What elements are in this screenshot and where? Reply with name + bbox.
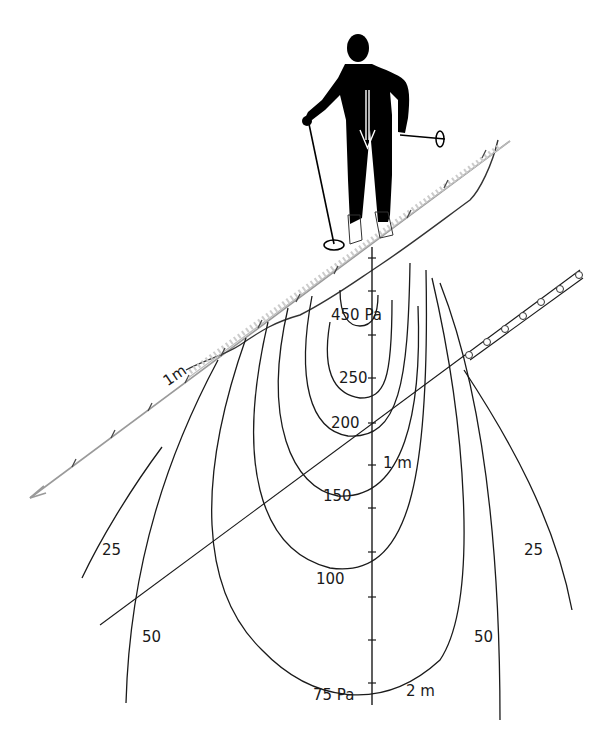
isobar-label-250: 250 [339, 369, 368, 387]
isobar-label-450: 450 Pa [331, 306, 382, 324]
isobars: 450 Pa 250 200 150 100 75 Pa 50 50 25 25 [82, 263, 572, 720]
isobar-label-25-right: 25 [524, 541, 543, 559]
isobar-label-50-left: 50 [142, 628, 161, 646]
isobar-label-50-right: 50 [474, 628, 493, 646]
isobar-label-200: 200 [331, 414, 360, 432]
slope-scale-label: 1m [160, 361, 190, 389]
isobar-label-150: 150 [323, 487, 352, 505]
depth-label-2m: 2 m [406, 682, 435, 700]
isobar-label-100: 100 [316, 570, 345, 588]
ski-pole-right [400, 135, 445, 139]
skier-silhouette [302, 34, 445, 250]
isobar-label-75: 75 Pa [313, 686, 354, 704]
depth-label-1m: 1 m [383, 454, 412, 472]
ski-pole-left [309, 124, 334, 244]
ski-track-band: 1m [160, 140, 510, 390]
isobar-label-25-left: 25 [102, 541, 121, 559]
snowpack-stress-diagram: 1m [0, 0, 610, 743]
